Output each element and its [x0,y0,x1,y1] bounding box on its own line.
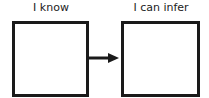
i-know-label: I know [12,1,90,14]
i-can-infer-box [121,21,200,97]
i-know-box [12,21,89,97]
i-can-infer-label: I can infer [118,1,204,14]
right-arrow-icon [88,52,120,64]
